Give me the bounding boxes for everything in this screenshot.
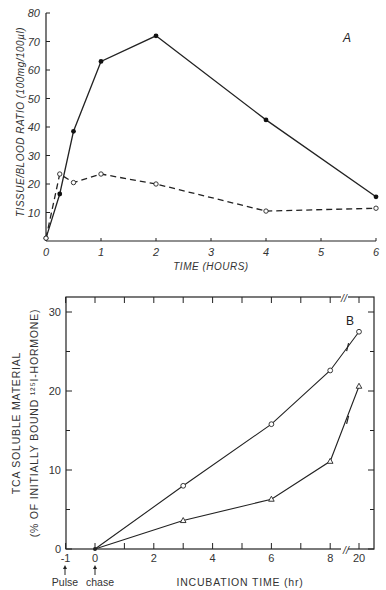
series-open-circles [95,329,361,549]
chart-a-series [44,33,379,240]
y-tick-label: 60 [28,64,41,76]
y-tick-label: 20 [49,385,61,397]
chart-a-x-axis-title: TIME (HOURS) [173,261,248,272]
y-tick-label: 30 [28,150,41,162]
data-point-open [58,172,62,176]
data-point-filled [374,194,379,199]
x-tick-label: 6 [268,552,274,564]
series-line [95,386,359,549]
data-point-circle [269,422,274,427]
chase-annotation: chase [86,565,114,588]
x-tick-label: 4 [210,552,216,564]
x-tick-label: 1 [98,246,104,258]
chart-b-x-ticks: -10246820 [61,297,365,564]
x-tick-label: 4 [263,246,269,258]
x-tick-label: 20 [353,552,365,564]
series-line [95,332,359,549]
data-point-open [374,206,378,210]
x-tick-label: 6 [373,246,380,258]
chart-b: 0102030 -10246820 // // B Pulse chase IN… [10,292,374,588]
y-tick-label: 40 [28,121,41,133]
chart-b-axis-break-bottom: // [342,544,350,556]
x-tick-label: 2 [151,552,157,564]
chart-b-axis-break-top: // [340,292,348,304]
data-point-triangle [327,458,333,463]
chart-b-y-ticks: 0102030 [49,306,374,555]
data-point-open [71,180,75,184]
y-tick-label: 10 [49,464,61,476]
data-point-filled [71,129,76,134]
chart-b-series [93,329,362,551]
data-point-circle [328,368,333,373]
chart-a-y-axis-title: TISSUE/BLOOD RATIO (100mg/100µl) [15,27,26,217]
chart-b-y-axis-title-line1: TCA SOLUBLE MATERIAL [10,352,22,494]
x-tick-label: 8 [327,552,333,564]
series-line [46,36,376,238]
data-point-triangle [269,496,275,501]
x-tick-label: 3 [208,246,215,258]
data-point-triangle [356,383,362,388]
y-tick-label: 50 [28,93,41,105]
data-point-filled [57,192,62,197]
data-point-open [99,172,103,176]
y-tick-label: 30 [49,306,61,318]
chart-b-panel-label: B [346,314,354,328]
data-point-open [44,236,48,240]
data-point-filled [154,33,159,38]
series-line [46,174,376,238]
x-tick-label: -1 [61,552,71,564]
chart-b-x-axis-title: INCUBATION TIME (hr) [176,576,303,588]
y-tick-label: 80 [28,7,41,19]
figure: 1020304050607080 0123456 A TIME (HOURS) … [0,0,386,590]
series-open-circles [44,172,378,241]
chart-a-panel-label: A [342,31,351,45]
series-open-triangles [95,383,362,549]
chart-a: 1020304050607080 0123456 A TIME (HOURS) … [15,7,380,272]
y-tick-label: 10 [28,207,41,219]
data-point-circle [357,329,362,334]
x-tick-label: 0 [43,246,50,258]
data-point-filled [99,59,104,64]
y-tick-label: 70 [28,36,41,48]
data-point-circle [181,483,186,488]
x-tick-label: 0 [92,552,98,564]
y-tick-label: 20 [27,178,41,190]
data-point-open [264,209,268,213]
data-point-filled [264,117,269,122]
x-tick-label: 2 [152,246,159,258]
x-tick-label: 5 [318,246,325,258]
data-point-open [154,182,158,186]
svg-text:chase: chase [86,576,114,588]
svg-text:Pulse: Pulse [52,576,78,588]
pulse-annotation: Pulse [52,565,78,588]
origin-point [93,547,97,551]
chart-b-y-axis-title-line2: (% OF INITIALLY BOUND ¹²⁵I-HORMONE) [28,309,40,538]
